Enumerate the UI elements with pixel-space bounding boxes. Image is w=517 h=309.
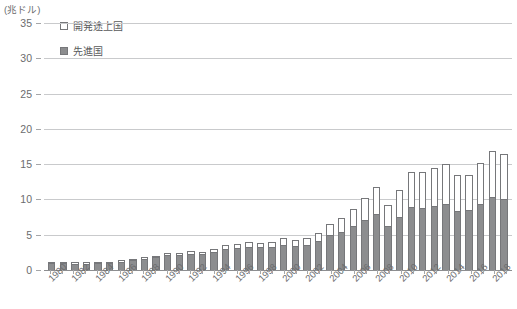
bar-stack <box>431 168 438 270</box>
bar-stack <box>500 154 507 270</box>
y-tick-mark <box>36 235 41 236</box>
x-tick-mark <box>319 270 320 274</box>
bar-column[interactable] <box>266 23 278 270</box>
bar-column[interactable] <box>232 23 244 270</box>
bar-column[interactable] <box>116 23 128 270</box>
bar-segment-developing <box>361 198 368 220</box>
bar-segment-developed <box>234 248 241 270</box>
bar-column[interactable] <box>487 23 499 270</box>
bar-column[interactable] <box>185 23 197 270</box>
bar-stack <box>477 163 484 270</box>
bar-column[interactable] <box>440 23 452 270</box>
bar-column[interactable] <box>301 23 313 270</box>
bar-stack <box>454 175 461 270</box>
bar-segment-developed <box>419 208 426 270</box>
y-tick-mark <box>36 58 41 59</box>
y-tick-mark <box>36 270 41 271</box>
bar-column[interactable] <box>197 23 209 270</box>
bar-column[interactable] <box>243 23 255 270</box>
bar-column[interactable] <box>452 23 464 270</box>
bar-segment-developed <box>477 204 484 270</box>
x-tick-mark <box>506 270 507 274</box>
y-tick-mark <box>36 23 41 24</box>
bar-column[interactable] <box>162 23 174 270</box>
bar-stack <box>210 249 217 270</box>
bar-stack <box>326 224 333 270</box>
x-tick-mark <box>62 270 63 274</box>
bar-column[interactable] <box>394 23 406 270</box>
y-tick-label: 30 <box>6 52 32 64</box>
bar-column[interactable] <box>371 23 383 270</box>
x-tick-mark <box>155 270 156 274</box>
bar-column[interactable] <box>417 23 429 270</box>
bar-segment-developed <box>326 235 333 270</box>
bar-stack <box>465 175 472 270</box>
bar-stack <box>489 151 496 270</box>
bar-column[interactable] <box>58 23 70 270</box>
bar-column[interactable] <box>405 23 417 270</box>
bar-segment-developing <box>350 209 357 227</box>
x-tick-mark <box>459 270 460 274</box>
bar-column[interactable] <box>104 23 116 270</box>
bar-stack <box>373 187 380 270</box>
bar-segment-developing <box>454 175 461 211</box>
y-tick-label: 0 <box>6 264 32 276</box>
x-tick-mark <box>108 270 109 274</box>
bar-stack <box>303 238 310 270</box>
plot-area <box>44 23 512 270</box>
y-tick-mark <box>36 129 41 130</box>
bar-segment-developing <box>477 163 484 203</box>
bar-segment-developing <box>500 154 507 199</box>
bar-column[interactable] <box>81 23 93 270</box>
bar-stack <box>350 209 357 270</box>
bar-segment-developed <box>489 197 496 270</box>
bar-column[interactable] <box>347 23 359 270</box>
bar-segment-developing <box>396 190 403 218</box>
bar-column[interactable] <box>127 23 139 270</box>
bar-segment-developed <box>350 226 357 270</box>
bar-column[interactable] <box>220 23 232 270</box>
bar-column[interactable] <box>174 23 186 270</box>
bar-column[interactable] <box>429 23 441 270</box>
bar-column[interactable] <box>359 23 371 270</box>
bar-column[interactable] <box>92 23 104 270</box>
bar-column[interactable] <box>475 23 487 270</box>
bar-column[interactable] <box>208 23 220 270</box>
y-tick-mark <box>36 94 41 95</box>
bar-segment-developed <box>303 245 310 270</box>
y-axis-unit-label: (兆ドル) <box>4 2 40 16</box>
bar-stack <box>396 190 403 270</box>
y-tick-label: 5 <box>6 229 32 241</box>
bar-segment-developed <box>396 217 403 270</box>
bar-segment-developed <box>280 245 287 270</box>
y-tick-label: 35 <box>6 17 32 29</box>
bar-column[interactable] <box>278 23 290 270</box>
bar-segment-developing <box>465 175 472 210</box>
bar-column[interactable] <box>324 23 336 270</box>
bar-column[interactable] <box>46 23 58 270</box>
y-tick-label: 20 <box>6 123 32 135</box>
x-tick-mark <box>342 270 343 274</box>
bar-segment-developing <box>419 172 426 208</box>
bar-column[interactable] <box>255 23 267 270</box>
bar-column[interactable] <box>69 23 81 270</box>
bar-column[interactable] <box>382 23 394 270</box>
bar-stack <box>361 198 368 270</box>
bar-column[interactable] <box>150 23 162 270</box>
bar-column[interactable] <box>336 23 348 270</box>
bar-column[interactable] <box>498 23 510 270</box>
x-tick-mark <box>85 270 86 274</box>
bar-column[interactable] <box>313 23 325 270</box>
bar-segment-developing <box>303 238 310 245</box>
x-tick-mark <box>272 270 273 274</box>
bar-stack <box>419 172 426 270</box>
bar-column[interactable] <box>139 23 151 270</box>
bar-segment-developing <box>489 151 496 197</box>
bar-column[interactable] <box>289 23 301 270</box>
y-tick-label: 10 <box>6 193 32 205</box>
bar-column[interactable] <box>463 23 475 270</box>
x-axis: 1980198219841986198819901992199419961998… <box>44 270 512 309</box>
bar-segment-developed <box>465 210 472 270</box>
bar-segment-developing <box>442 164 449 204</box>
x-tick-mark <box>389 270 390 274</box>
